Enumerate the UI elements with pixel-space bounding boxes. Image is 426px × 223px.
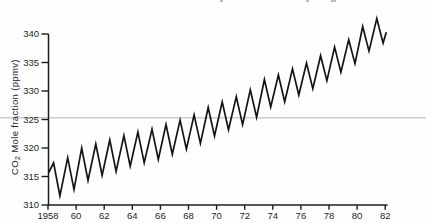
- y-tick-label: 330: [23, 85, 39, 96]
- x-tick-label: 70: [211, 210, 222, 221]
- y-axis-title: CO2 Mole fraction (ppmv): [9, 59, 21, 175]
- y-tick-label: 320: [23, 142, 39, 153]
- cropped-text-remnant: [306, 0, 309, 2]
- y-tick-label: 315: [23, 171, 39, 182]
- x-tick-label: 76: [296, 210, 307, 221]
- x-tick-label: 82: [380, 210, 391, 221]
- y-tick-label: 335: [23, 57, 39, 68]
- x-tick-label: 1958: [37, 210, 58, 221]
- x-tick-label: 66: [155, 210, 166, 221]
- x-tick-label: 78: [324, 210, 335, 221]
- y-tick-label: 325: [23, 114, 39, 125]
- y-axis-title-subscript: 2: [14, 156, 21, 160]
- cropped-text-remnant: [220, 0, 223, 2]
- y-tick-label: 340: [23, 28, 39, 39]
- x-tick-label: 62: [99, 210, 110, 221]
- x-tick-label: 60: [71, 210, 82, 221]
- x-tick-label: 74: [268, 210, 279, 221]
- co2-curve-line: [49, 19, 387, 196]
- cropped-text-remnant: [331, 0, 336, 2]
- x-tick-label: 72: [239, 210, 250, 221]
- x-tick-label: 64: [127, 210, 138, 221]
- co2-chart: 3103153203253303353401958606264666870727…: [0, 0, 426, 223]
- y-tick-label: 310: [23, 199, 39, 210]
- x-tick-label: 80: [352, 210, 363, 221]
- y-axis-title-rest: Mole fraction (ppmv): [9, 59, 20, 156]
- keeling-curve-figure: 3103153203253303353401958606264666870727…: [0, 0, 426, 223]
- x-tick-label: 68: [183, 210, 194, 221]
- y-axis-title-prefix: CO: [9, 160, 20, 175]
